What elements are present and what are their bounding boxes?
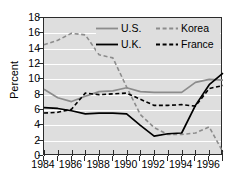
legend-uk[interactable]: U.K. [96, 38, 156, 50]
y-axis-tick-label: 6 [10, 104, 40, 114]
series-line-us [44, 79, 223, 101]
y-axis-tick-label: 8 [10, 89, 40, 99]
y-axis-tick-label: 14 [10, 43, 40, 53]
y-axis-tick-label: 12 [10, 58, 40, 68]
y-axis-tick-label: 16 [10, 27, 40, 37]
legend-korea[interactable]: Korea [156, 22, 220, 34]
legend-korea-label: Korea [181, 22, 209, 34]
legend-us-label: U.S. [121, 22, 141, 34]
legend-france[interactable]: France [156, 38, 220, 50]
y-axis-tick-label: 10 [10, 73, 40, 83]
legend-korea-swatch-icon [156, 24, 178, 33]
y-axis-tick-label: 18 [10, 12, 40, 22]
legend-france-label: France [181, 38, 214, 50]
x-axis-tick-label: 1996 [188, 158, 228, 170]
legend-us[interactable]: U.S. [96, 22, 156, 34]
line-chart: Percent 024681012141618 1984198619881990… [0, 0, 234, 180]
chart-legend: U.S.KoreaU.K.France [96, 20, 220, 53]
legend-uk-swatch-icon [96, 40, 118, 49]
legend-uk-label: U.K. [121, 38, 141, 50]
legend-us-swatch-icon [96, 24, 118, 33]
legend-france-swatch-icon [156, 40, 178, 49]
y-axis-tick-label: 2 [10, 135, 40, 145]
y-axis-tick-label: 4 [10, 119, 40, 129]
